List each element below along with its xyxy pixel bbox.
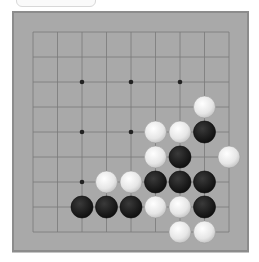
star-point	[80, 130, 85, 135]
black-stone	[169, 146, 191, 168]
star-point	[129, 80, 134, 85]
white-stone	[120, 171, 142, 193]
black-stone	[194, 196, 216, 218]
star-point	[80, 180, 85, 185]
black-stone	[120, 196, 142, 218]
white-stone	[169, 221, 191, 243]
white-stone	[194, 221, 216, 243]
white-stone	[169, 196, 191, 218]
black-stone	[96, 196, 118, 218]
black-stone	[194, 171, 216, 193]
star-point	[80, 80, 85, 85]
black-stone	[194, 121, 216, 143]
star-point	[178, 80, 183, 85]
white-stone	[169, 121, 191, 143]
white-stone	[194, 96, 216, 118]
white-stone	[96, 171, 118, 193]
white-stone	[145, 146, 167, 168]
star-point	[129, 130, 134, 135]
white-stone	[218, 146, 240, 168]
white-stone	[145, 196, 167, 218]
black-stone	[71, 196, 93, 218]
board-grid[interactable]	[0, 0, 259, 262]
white-stone	[145, 121, 167, 143]
black-stone	[169, 171, 191, 193]
black-stone	[145, 171, 167, 193]
